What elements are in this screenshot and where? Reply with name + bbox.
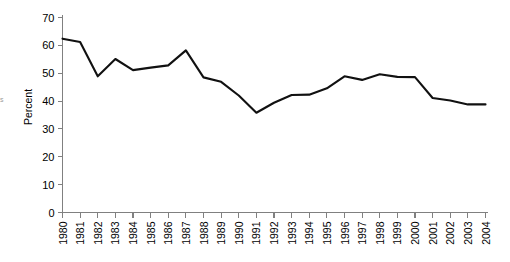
x-tick-label: 1984 — [127, 221, 139, 245]
x-tick-label: 1989 — [215, 221, 227, 245]
y-axis-title-label: Percent — [22, 89, 34, 125]
data-line-percent — [63, 39, 486, 113]
x-tick-label: 2004 — [480, 221, 492, 245]
y-tick-label: 30 — [42, 123, 54, 135]
x-tick-label: 1985 — [145, 221, 157, 245]
x-tick-label: 1988 — [198, 221, 210, 245]
x-tick-label: 1993 — [286, 221, 298, 245]
x-tick-label: 2003 — [462, 221, 474, 245]
y-axis: 010203040506070 — [42, 12, 62, 219]
x-tick-label: 1994 — [303, 221, 315, 245]
x-tick-label: 1997 — [356, 221, 368, 245]
x-tick-label: 1981 — [74, 221, 86, 245]
x-axis: 1980198119821983198419851986198719881989… — [57, 213, 492, 245]
x-tick-label: 1998 — [374, 221, 386, 245]
x-tick-label: 1991 — [250, 221, 262, 245]
x-tick-label: 1996 — [339, 221, 351, 245]
y-tick-label: 0 — [48, 207, 54, 219]
y-tick-label: 40 — [42, 95, 54, 107]
y-tick-label: 20 — [42, 151, 54, 163]
y-tick-label: 70 — [42, 12, 54, 24]
x-tick-label: 1987 — [180, 221, 192, 245]
y-axis-title: Percent — [22, 89, 34, 125]
y-tick-label: 60 — [42, 39, 54, 51]
y-tick-label: 50 — [42, 67, 54, 79]
x-tick-label: 1992 — [268, 221, 280, 245]
x-tick-label: 2000 — [409, 221, 421, 245]
data-series-group — [63, 39, 486, 113]
x-tick-label: 1990 — [233, 221, 245, 245]
x-tick-label: 1980 — [57, 221, 69, 245]
line-chart: 010203040506070 198019811982198319841985… — [0, 0, 510, 262]
x-tick-label: 1983 — [109, 221, 121, 245]
chart-container: s 010203040506070 1980198119821983198419… — [0, 0, 510, 262]
y-tick-label: 10 — [42, 179, 54, 191]
x-tick-label: 2002 — [444, 221, 456, 245]
x-tick-label: 1982 — [92, 221, 104, 245]
x-tick-label: 2001 — [427, 221, 439, 245]
x-tick-label: 1999 — [391, 221, 403, 245]
x-tick-label: 1986 — [162, 221, 174, 245]
x-tick-label: 1995 — [321, 221, 333, 245]
